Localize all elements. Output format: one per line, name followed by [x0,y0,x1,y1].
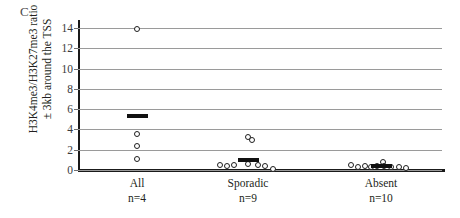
figure-panel-c: C H3K4me3/H3K27me3 ratio ± 3kb around th… [0,0,460,218]
y-tick-mark-14 [74,28,78,29]
data-point [231,162,237,168]
y-tick-label-2: 2 [67,144,73,156]
gridline-12: 12 [78,48,442,49]
y-tick-mark-10 [74,69,78,70]
data-point [262,163,268,169]
data-point [134,26,140,32]
gridline-6: 6 [78,109,442,110]
data-point [134,156,140,162]
category-name: Absent [365,176,398,191]
category-name: All [128,176,146,191]
y-tick-mark-4 [74,129,78,130]
data-point [224,163,230,169]
gridline-2: 2 [78,150,442,151]
mean-bar [238,158,259,162]
data-point [403,165,409,171]
mean-bar [127,114,148,118]
y-tick-label-6: 6 [67,103,73,115]
data-point [134,131,140,137]
gridline-10: 10 [78,69,442,70]
x-axis-label-absent: Absentn=10 [365,176,398,205]
y-tick-mark-6 [74,109,78,110]
gridline-14: 14 [78,28,442,29]
y-tick-label-14: 14 [62,22,74,34]
data-point [355,164,361,170]
y-tick-mark-8 [74,89,78,90]
gridline-8: 8 [78,89,442,90]
data-point [396,164,402,170]
y-tick-mark-2 [74,150,78,151]
category-count: n=10 [365,191,398,206]
plot-area: 02468101214 [78,22,442,170]
category-name: Sporadic [228,176,269,191]
x-axis-label-sporadic: Sporadicn=9 [228,176,269,205]
data-point [217,162,223,168]
y-tick-label-12: 12 [62,42,74,54]
gridline-0: 0 [78,170,442,171]
y-axis-title-line-1: H3K4me3/H3K27me3 ratio [26,0,40,154]
category-count: n=4 [128,191,146,206]
y-tick-label-0: 0 [67,164,73,176]
gridline-4: 4 [78,129,442,130]
data-point [249,137,255,143]
data-point [270,166,276,172]
data-point [348,162,354,168]
y-tick-mark-12 [74,48,78,49]
mean-bar [371,164,392,168]
data-point [134,143,140,149]
y-tick-label-8: 8 [67,83,73,95]
y-tick-label-4: 4 [67,123,73,135]
y-tick-mark-0 [74,170,78,171]
data-point [255,162,261,168]
category-count: n=9 [228,191,269,206]
y-tick-label-10: 10 [62,63,74,75]
x-axis-label-all: Alln=4 [128,176,146,205]
y-axis-title: H3K4me3/H3K27me3 ratio ± 3kb around the … [26,0,54,154]
y-axis-title-line-2: ± 3kb around the TSS [40,0,54,154]
